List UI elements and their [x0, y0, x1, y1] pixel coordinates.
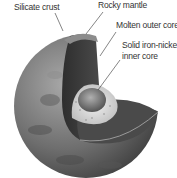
label-inner-core-line1: Solid iron-nickel [122, 40, 177, 50]
label-molten-outer-core: Molten outer core [116, 20, 177, 30]
inner-core [78, 88, 106, 112]
label-silicate-crust: Silicate crust [14, 2, 59, 12]
label-rocky-mantle: Rocky mantle [98, 0, 147, 10]
label-inner-core-line2: inner core [122, 51, 158, 61]
